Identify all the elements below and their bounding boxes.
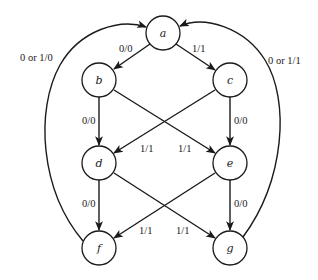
node-g: g: [213, 231, 247, 265]
label-d-g: 1/1: [176, 225, 189, 236]
label-c-e: 0/0: [234, 115, 247, 126]
node-f: f: [82, 231, 116, 265]
node-c-label: c: [227, 74, 233, 87]
edge-labels: 0/0 1/1 0/0 1/1 1/1 0/0 0/0 1/1 1/1 0/0 …: [20, 43, 301, 236]
label-c-d: 1/1: [140, 143, 153, 154]
node-c: c: [213, 63, 247, 97]
node-b: b: [82, 63, 116, 97]
node-a-label: a: [160, 27, 167, 40]
node-d: d: [82, 146, 116, 180]
label-e-f: 1/1: [139, 225, 152, 236]
node-b-label: b: [95, 74, 102, 87]
label-f-a: 0 or 1/0: [20, 52, 53, 63]
label-b-e: 1/1: [178, 143, 191, 154]
label-e-g: 0/0: [234, 198, 247, 209]
nodes: a b c d e f g: [82, 16, 247, 265]
node-e-label: e: [227, 157, 234, 170]
node-d-label: d: [95, 157, 102, 170]
label-d-f: 0/0: [82, 198, 95, 209]
label-a-c: 1/1: [192, 43, 205, 54]
state-diagram: 0/0 1/1 0/0 1/1 1/1 0/0 0/0 1/1 1/1 0/0 …: [0, 0, 318, 280]
label-g-a: 0 or 1/1: [268, 55, 301, 66]
label-b-d: 0/0: [82, 115, 95, 126]
node-e: e: [213, 146, 247, 180]
node-a: a: [146, 16, 180, 50]
label-a-b: 0/0: [119, 43, 132, 54]
node-g-label: g: [226, 242, 233, 255]
